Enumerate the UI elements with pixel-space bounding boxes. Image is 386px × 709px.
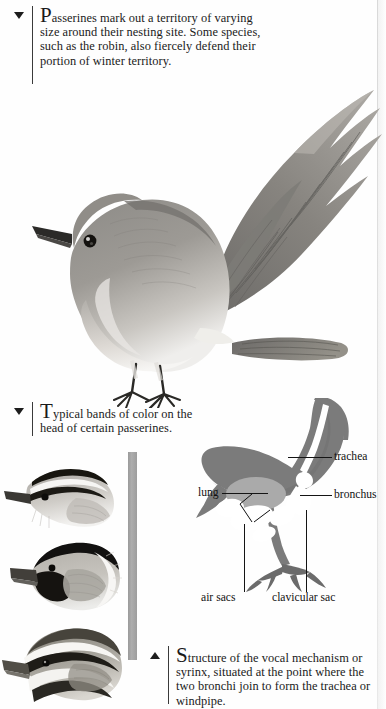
triangle-down-icon bbox=[14, 12, 24, 19]
caption-bands: Typical bands of color on the head of ce… bbox=[14, 402, 204, 436]
caption-bands-body: ypical bands of color on the head of cer… bbox=[40, 407, 192, 435]
bird-foot bbox=[246, 564, 326, 592]
leader-bronchus bbox=[300, 495, 332, 496]
dropcap-t: T bbox=[40, 399, 53, 423]
caption-syrinx-text: Structure of the vocal mechanism or syri… bbox=[176, 646, 382, 708]
head-figure-striped-crown bbox=[2, 458, 120, 534]
robin-illustration bbox=[14, 48, 386, 408]
syrinx-anatomy-diagram bbox=[196, 398, 386, 648]
page-canvas: Passerines mark out a territory of varyi… bbox=[0, 0, 386, 709]
vertical-gray-bar bbox=[128, 452, 137, 660]
leader-air-sacs bbox=[244, 524, 245, 592]
leader-clavicular-sac bbox=[306, 510, 307, 592]
label-clavicular-sac: clavicular sac bbox=[272, 592, 335, 604]
label-bronchus: bronchus bbox=[334, 489, 377, 501]
leader-lung bbox=[222, 493, 268, 494]
caption-syrinx: Structure of the vocal mechanism or syri… bbox=[150, 646, 382, 708]
robin-eye bbox=[84, 235, 97, 248]
dropcap-p: P bbox=[40, 3, 52, 27]
triangle-down-icon bbox=[14, 408, 24, 415]
caption-bands-text: Typical bands of color on the head of ce… bbox=[40, 402, 204, 435]
caption-syrinx-body: tructure of the vocal mechanism or syrin… bbox=[176, 651, 370, 708]
leader-trachea bbox=[288, 457, 332, 458]
label-trachea: trachea bbox=[334, 451, 367, 463]
label-lung: lung bbox=[198, 487, 219, 499]
head-figure-black-cap bbox=[6, 534, 124, 616]
head-figure-eye-stripe bbox=[2, 616, 128, 704]
robin-tail bbox=[232, 338, 348, 361]
robin-wing bbox=[210, 90, 382, 314]
dropcap-s: S bbox=[176, 643, 188, 667]
caption-rule bbox=[168, 646, 169, 704]
triangle-up-icon bbox=[150, 652, 160, 659]
label-air-sacs: air sacs bbox=[201, 592, 235, 604]
robin-body bbox=[70, 199, 234, 372]
caption-rule bbox=[32, 402, 33, 436]
